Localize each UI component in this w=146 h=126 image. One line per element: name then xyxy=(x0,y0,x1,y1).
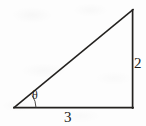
side-label-vertical-leg: 2 xyxy=(134,56,142,71)
angle-label-theta: θ xyxy=(32,89,38,101)
triangle-figure: θ 2 3 xyxy=(0,0,146,126)
side-label-base: 3 xyxy=(64,110,72,125)
triangle-drawing xyxy=(0,0,146,126)
